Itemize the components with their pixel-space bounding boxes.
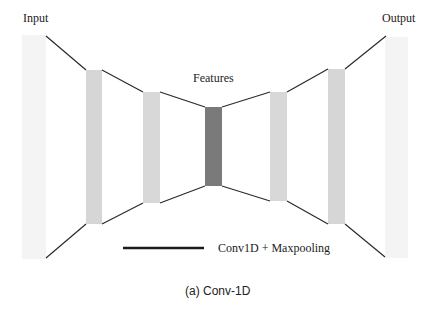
encoder-layer-1-bar bbox=[86, 70, 102, 224]
output-label: Output bbox=[382, 12, 415, 24]
decoder-layer-1-bar bbox=[270, 92, 287, 201]
input-label: Input bbox=[23, 12, 48, 24]
output-layer-bar bbox=[385, 37, 408, 258]
features-label: Features bbox=[193, 72, 234, 84]
input-layer-bar bbox=[22, 35, 46, 259]
legend-label: Conv1D + Maxpooling bbox=[218, 242, 330, 254]
encoder-layer-2-bar bbox=[143, 92, 160, 203]
diagram-caption: (a) Conv-1D bbox=[185, 285, 250, 297]
decoder-layer-2-bar bbox=[328, 69, 345, 224]
autoencoder-diagram bbox=[0, 0, 436, 311]
features-layer-bar bbox=[205, 107, 222, 186]
